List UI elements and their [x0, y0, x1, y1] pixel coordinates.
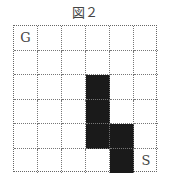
blocked-cell	[86, 124, 110, 149]
grid-cell	[62, 124, 86, 149]
grid-cell	[14, 124, 38, 149]
grid-cell	[14, 149, 38, 174]
grid-cell	[62, 75, 86, 100]
grid-cell	[134, 100, 158, 125]
grid-cell	[134, 51, 158, 76]
grid-cell	[86, 149, 110, 174]
grid-cell	[110, 100, 134, 125]
grid-cell	[110, 51, 134, 76]
figure-title: 図２	[0, 2, 170, 21]
grid-cell	[38, 75, 62, 100]
grid-cell	[134, 75, 158, 100]
goal-cell: G	[14, 26, 38, 51]
grid-cell	[134, 26, 158, 51]
grid-cell	[86, 26, 110, 51]
blocked-cell	[110, 149, 134, 174]
grid-cell	[86, 51, 110, 76]
start-cell: S	[134, 149, 158, 174]
grid-cell	[14, 75, 38, 100]
grid-cell	[110, 26, 134, 51]
blocked-cell	[86, 100, 110, 125]
grid-cell	[62, 26, 86, 51]
grid-cell	[62, 100, 86, 125]
grid-cell	[38, 124, 62, 149]
grid-cell	[38, 51, 62, 76]
grid-cell	[134, 124, 158, 149]
blocked-cell	[110, 124, 134, 149]
grid-cell	[110, 75, 134, 100]
grid-cell	[14, 100, 38, 125]
grid-cell	[38, 100, 62, 125]
blocked-cell	[86, 75, 110, 100]
grid-cell	[62, 51, 86, 76]
grid-cell	[38, 26, 62, 51]
grid-map: GS	[13, 25, 157, 172]
grid-cell	[14, 51, 38, 76]
grid-cell	[62, 149, 86, 174]
grid-cell	[38, 149, 62, 174]
